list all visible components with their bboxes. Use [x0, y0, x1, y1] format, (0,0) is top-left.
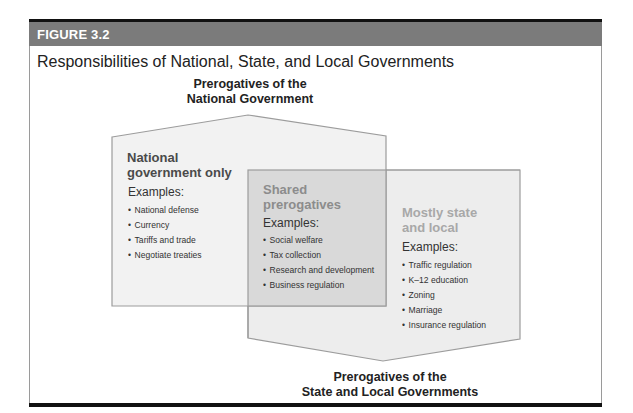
- list-item: Traffic regulation: [402, 257, 486, 272]
- state-items-list: Traffic regulation K–12 education Zoning…: [402, 257, 486, 332]
- state-title-line2: and local: [402, 220, 477, 235]
- list-item: National defense: [128, 202, 202, 217]
- state-label-line2: State and Local Governments: [290, 385, 490, 400]
- state-title-line1: Mostly state: [402, 205, 477, 220]
- national-title-line1: National: [127, 150, 232, 165]
- national-region-title: National government only: [127, 150, 232, 180]
- shared-title-line1: Shared: [263, 182, 341, 197]
- list-item: Business regulation: [263, 277, 374, 292]
- list-item: Negotiate treaties: [128, 247, 202, 262]
- list-item: Currency: [128, 217, 202, 232]
- list-item: Tariffs and trade: [128, 232, 202, 247]
- state-examples-label: Examples:: [402, 240, 458, 254]
- list-item: Research and development: [263, 262, 374, 277]
- state-prerogatives-label: Prerogatives of the State and Local Gove…: [290, 370, 490, 400]
- state-region-title: Mostly state and local: [402, 205, 477, 235]
- shared-items-list: Social welfare Tax collection Research a…: [263, 232, 374, 292]
- list-item: Marriage: [402, 302, 486, 317]
- list-item: Social welfare: [263, 232, 374, 247]
- list-item: Zoning: [402, 287, 486, 302]
- list-item: K–12 education: [402, 272, 486, 287]
- frame-bottom-rule: [29, 403, 602, 407]
- list-item: Tax collection: [263, 247, 374, 262]
- shared-examples-label: Examples:: [263, 216, 319, 230]
- shared-title-line2: prerogatives: [263, 197, 341, 212]
- national-title-line2: government only: [127, 165, 232, 180]
- national-examples-label: Examples:: [128, 185, 184, 199]
- shared-region-title: Shared prerogatives: [263, 182, 341, 212]
- list-item: Insurance regulation: [402, 317, 486, 332]
- national-items-list: National defense Currency Tariffs and tr…: [128, 202, 202, 262]
- state-label-line1: Prerogatives of the: [290, 370, 490, 385]
